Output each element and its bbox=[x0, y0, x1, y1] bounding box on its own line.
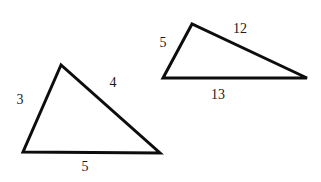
large-triangle-label-12: 12 bbox=[233, 22, 247, 36]
large-triangle-label-5: 5 bbox=[160, 36, 167, 50]
small-triangle-label-3: 3 bbox=[17, 93, 24, 107]
small-triangle-label-4: 4 bbox=[110, 76, 117, 90]
large-triangle-label-13: 13 bbox=[211, 88, 225, 102]
triangles-figure: 3 4 5 5 12 13 bbox=[0, 0, 321, 182]
small-triangle-label-5: 5 bbox=[82, 160, 89, 174]
triangles-svg bbox=[0, 0, 321, 182]
small-triangle-shape bbox=[23, 65, 160, 153]
